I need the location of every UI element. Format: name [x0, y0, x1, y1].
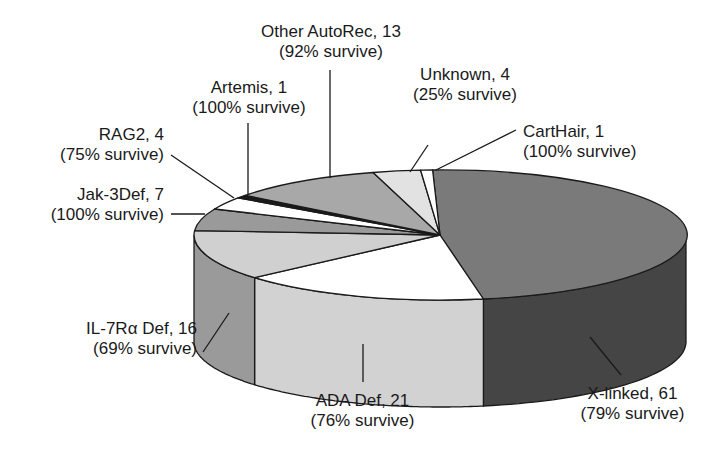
label-unknown-survival: (25% survive): [405, 85, 525, 105]
label-other-autorec: Other AutoRec, 13 (92% survive): [238, 22, 424, 62]
leader-rag2: [171, 155, 234, 198]
label-artemis-name: Artemis, 1: [184, 78, 314, 98]
label-unknown: Unknown, 4 (25% survive): [405, 65, 525, 105]
label-other-survival: (92% survive): [238, 42, 424, 62]
label-il7-name: IL-7Rα Def, 16: [40, 319, 197, 339]
leader-unknown: [410, 145, 428, 172]
label-carthair-survival: (100% survive): [523, 142, 663, 162]
label-ada-survival: (76% survive): [290, 411, 435, 431]
label-artemis-survival: (100% survive): [184, 98, 314, 118]
label-rag2-name: RAG2, 4: [20, 125, 164, 145]
label-rag2-survival: (75% survive): [20, 145, 164, 165]
label-jak3-name: Jak-3Def, 7: [10, 185, 164, 205]
label-jak3: Jak-3Def, 7 (100% survive): [10, 185, 164, 225]
label-xlinked-name: X-linked, 61: [565, 384, 700, 404]
label-artemis: Artemis, 1 (100% survive): [184, 78, 314, 118]
label-ada-name: ADA Def, 21: [290, 391, 435, 411]
label-rag2: RAG2, 4 (75% survive): [20, 125, 164, 165]
label-il7-survival: (69% survive): [40, 339, 197, 359]
label-xlinked-survival: (79% survive): [565, 404, 700, 424]
label-ada: ADA Def, 21 (76% survive): [290, 391, 435, 431]
label-other-name: Other AutoRec, 13: [238, 22, 424, 42]
pie-top-slices: [194, 170, 687, 300]
label-il7ra: IL-7Rα Def, 16 (69% survive): [40, 319, 197, 359]
label-unknown-name: Unknown, 4: [405, 65, 525, 85]
label-jak3-survival: (100% survive): [10, 205, 164, 225]
label-carthair-name: CartHair, 1: [523, 122, 663, 142]
label-xlinked: X-linked, 61 (79% survive): [565, 384, 700, 424]
leader-carthair: [436, 130, 516, 170]
label-carthair: CartHair, 1 (100% survive): [523, 122, 663, 162]
